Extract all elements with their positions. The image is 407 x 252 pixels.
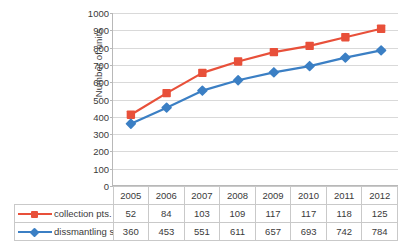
- table-cell: 551: [184, 223, 220, 241]
- data-point-marker: [162, 89, 170, 97]
- table-cell: 117: [255, 205, 291, 223]
- y-axis-tick-label: 400: [67, 113, 109, 123]
- y-axis-tick-label: 200: [67, 147, 109, 157]
- data-point-marker: [197, 85, 208, 96]
- data-table-wrapper: 20052006200720082009201020112012collecti…: [14, 186, 398, 241]
- legend-marker-icon: [18, 209, 52, 219]
- data-point-marker: [304, 61, 315, 72]
- series-line-collection-pts: [131, 29, 381, 115]
- table-cell: 84: [149, 205, 185, 223]
- plot-area: 10009008007006005004003002001000: [112, 13, 398, 186]
- legend-entry[interactable]: dissmantling st.: [15, 223, 114, 241]
- data-point-marker: [341, 33, 349, 41]
- series-lines: [113, 13, 399, 186]
- table-header-row: 20052006200720082009201020112012: [15, 187, 398, 205]
- table-corner-cell: [15, 187, 114, 205]
- data-point-marker: [376, 45, 387, 56]
- x-axis-category-label: 2009: [255, 187, 291, 205]
- legend-label: dissmantling st.: [52, 226, 113, 237]
- x-axis-category-label: 2010: [291, 187, 327, 205]
- table-cell: 118: [326, 205, 362, 223]
- x-axis-category-label: 2012: [362, 187, 398, 205]
- legend-entry[interactable]: collection pts.: [15, 205, 114, 223]
- table-cell: 657: [255, 223, 291, 241]
- y-axis-tick-label: 300: [67, 130, 109, 140]
- data-point-marker: [270, 48, 278, 56]
- y-axis-tick-label: 600: [67, 78, 109, 88]
- y-axis-tick-label: 1000: [67, 9, 109, 19]
- data-point-marker: [305, 42, 313, 50]
- y-axis-tick-label: 500: [67, 96, 109, 106]
- x-axis-category-label: 2006: [149, 187, 185, 205]
- y-axis-tick-label: 100: [67, 165, 109, 175]
- data-point-marker: [198, 69, 206, 77]
- chart-figure: Number of units 100090080070060050040030…: [0, 0, 407, 252]
- data-point-marker: [340, 52, 351, 63]
- y-axis-tick-label: 800: [67, 44, 109, 54]
- x-axis-category-label: 2005: [113, 187, 149, 205]
- table-row: dissmantling st.360453551611657693742784: [15, 223, 398, 241]
- table-cell: 360: [113, 223, 149, 241]
- x-axis-category-label: 2011: [326, 187, 362, 205]
- data-point-marker: [233, 75, 244, 86]
- table-cell: 52: [113, 205, 149, 223]
- data-point-marker: [268, 67, 279, 78]
- table-cell: 693: [291, 223, 327, 241]
- data-point-marker: [127, 111, 135, 119]
- x-axis-category-label: 2008: [220, 187, 256, 205]
- y-axis-tick-label: 900: [67, 26, 109, 36]
- data-point-marker: [125, 118, 136, 129]
- table-cell: 784: [362, 223, 398, 241]
- data-table: 20052006200720082009201020112012collecti…: [14, 186, 398, 241]
- table-cell: 611: [220, 223, 256, 241]
- table-cell: 103: [184, 205, 220, 223]
- legend-marker-icon: [18, 227, 52, 237]
- table-row: collection pts.5284103109117117118125: [15, 205, 398, 223]
- table-cell: 117: [291, 205, 327, 223]
- legend-label: collection pts.: [52, 208, 112, 219]
- table-cell: 109: [220, 205, 256, 223]
- table-cell: 125: [362, 205, 398, 223]
- x-axis-category-label: 2007: [184, 187, 220, 205]
- data-point-marker: [161, 102, 172, 113]
- y-axis-tick-label: 700: [67, 61, 109, 71]
- series-line-dissmantling-st: [131, 50, 381, 123]
- table-cell: 453: [149, 223, 185, 241]
- table-cell: 742: [326, 223, 362, 241]
- data-point-marker: [234, 57, 242, 65]
- data-point-marker: [377, 25, 385, 33]
